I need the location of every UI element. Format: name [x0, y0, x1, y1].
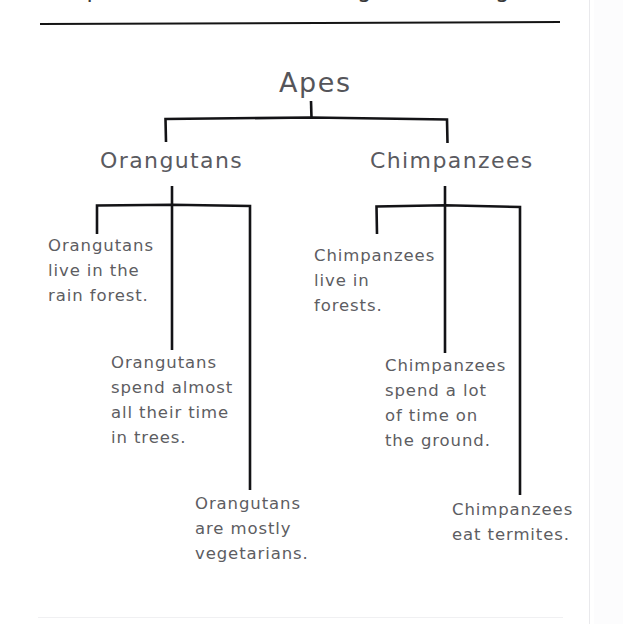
page-edge-line [589, 0, 590, 624]
leaf-chimpanzees-time-on-ground: Chimpanzees spend a lot of time on the g… [385, 353, 506, 453]
leaf-chimpanzees-habitat: Chimpanzees live in forests. [314, 243, 435, 318]
tree-root-label: Apes [279, 67, 352, 98]
leaf-chimpanzees-diet: Chimpanzees eat termites. [452, 497, 573, 547]
tree-branch-label-orangutans: Orangutans [100, 148, 243, 173]
cut-off-worksheet-title: Compare and contrast using a tree diagra… [0, 0, 590, 6]
page-margin-strip [594, 0, 623, 624]
scanned-page: Compare and contrast using a tree diagra… [0, 0, 623, 624]
footer-rule [38, 617, 563, 618]
leaf-orangutans-habitat: Orangutans live in the rain forest. [48, 233, 154, 308]
leaf-orangutans-time-in-trees: Orangutans spend almost all their time i… [111, 350, 233, 450]
tree-branch-label-chimpanzees: Chimpanzees [370, 148, 534, 173]
leaf-orangutans-diet: Orangutans are mostly vegetarians. [195, 491, 309, 566]
